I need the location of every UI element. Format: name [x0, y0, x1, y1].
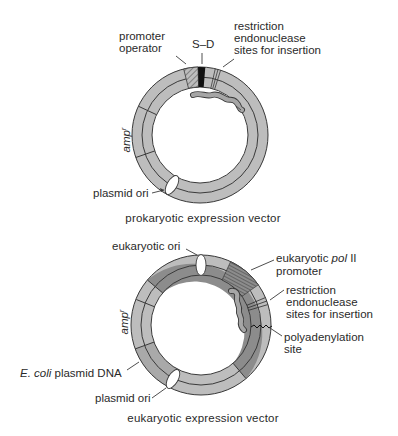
label-polyadenylation: polyadenylation	[284, 331, 364, 343]
prokaryotic-vector: promoter operator S–D restriction endonu…	[93, 20, 321, 224]
label-operator: operator	[119, 42, 162, 54]
label-restriction-2-b: endonuclease	[286, 296, 358, 308]
caption-prokaryotic: prokaryotic expression vector	[125, 212, 280, 224]
label-eukaryotic-ori: eukaryotic ori	[112, 240, 180, 252]
label-amp-b: ampr	[117, 309, 130, 334]
label-restriction-1-b: restriction	[286, 284, 336, 296]
label-restriction-2: endonuclease	[234, 32, 306, 44]
label-restriction-3: sites for insertion	[234, 44, 321, 56]
label-pol-ii-promoter: promoter	[276, 265, 322, 277]
eukaryotic-ori-marker	[196, 255, 206, 276]
caption-eukaryotic: eukaryotic expression vector	[127, 412, 278, 424]
label-restriction-3-b: sites for insertion	[286, 308, 373, 320]
prokaryotic-plasmid-ring	[132, 67, 268, 203]
label-amp: ampr	[119, 127, 132, 152]
label-plasmid-ori-b: plasmid ori	[95, 392, 151, 404]
leader-eukaryotic-ori	[186, 249, 197, 255]
label-plasmid-ori: plasmid ori	[93, 187, 149, 199]
label-pol-ii: eukaryotic pol II	[276, 252, 357, 264]
label-restriction-1: restriction	[234, 20, 284, 32]
leader-promoter	[176, 56, 186, 64]
label-sd: S–D	[192, 38, 214, 50]
leader-ori-b	[152, 388, 166, 398]
eukaryotic-vector: eukaryotic ori eukaryotic pol II promote…	[20, 240, 373, 424]
leader-ecoli	[127, 362, 139, 370]
leader-restriction	[223, 59, 234, 67]
leader-polyadenylation	[270, 328, 282, 336]
label-promoter: promoter	[119, 30, 165, 42]
label-polyadenylation-site: site	[284, 343, 302, 355]
expression-vector-figure: promoter operator S–D restriction endonu…	[0, 0, 398, 436]
label-ecoli-plasmid-dna: E. coli plasmid DNA	[20, 367, 122, 379]
leader-restriction-b	[270, 290, 284, 300]
leader-pol-ii	[251, 260, 274, 270]
